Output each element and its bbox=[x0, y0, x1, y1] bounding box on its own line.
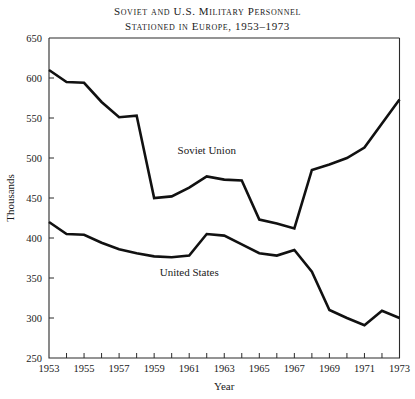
series-label-soviet-union: Soviet Union bbox=[178, 144, 237, 156]
x-tick-label: 1969 bbox=[319, 363, 340, 374]
x-tick-label: 1963 bbox=[214, 363, 235, 374]
y-axis-title: Thousands bbox=[4, 174, 16, 222]
y-tick-label: 350 bbox=[26, 273, 42, 284]
x-axis-ticks: 1953195519571959196119631965196719691971… bbox=[39, 353, 411, 374]
line-chart: 250300350400450500550600650 195319551957… bbox=[0, 0, 415, 399]
x-tick-label: 1957 bbox=[109, 363, 130, 374]
x-tick-label: 1953 bbox=[39, 363, 60, 374]
series-label-united-states: United States bbox=[160, 266, 219, 278]
x-tick-label: 1959 bbox=[144, 363, 165, 374]
x-tick-label: 1965 bbox=[249, 363, 270, 374]
y-tick-label: 400 bbox=[26, 233, 42, 244]
x-tick-label: 1955 bbox=[74, 363, 95, 374]
y-tick-label: 600 bbox=[26, 73, 42, 84]
y-tick-label: 450 bbox=[26, 193, 42, 204]
y-tick-label: 650 bbox=[26, 33, 42, 44]
x-tick-label: 1971 bbox=[354, 363, 375, 374]
y-tick-label: 300 bbox=[26, 313, 42, 324]
x-axis-title: Year bbox=[214, 380, 235, 392]
y-tick-label: 250 bbox=[26, 353, 42, 364]
x-tick-label: 1961 bbox=[179, 363, 200, 374]
x-tick-label: 1973 bbox=[389, 363, 410, 374]
y-axis-ticks: 250300350400450500550600650 bbox=[26, 33, 54, 364]
y-tick-label: 550 bbox=[26, 113, 42, 124]
chart-page: Soviet and U.S. Military Personnel Stati… bbox=[0, 0, 415, 399]
axis-frame bbox=[49, 38, 400, 358]
x-tick-label: 1967 bbox=[284, 363, 305, 374]
series-line-united-states bbox=[49, 222, 400, 325]
series-lines bbox=[49, 70, 400, 325]
y-tick-label: 500 bbox=[26, 153, 42, 164]
